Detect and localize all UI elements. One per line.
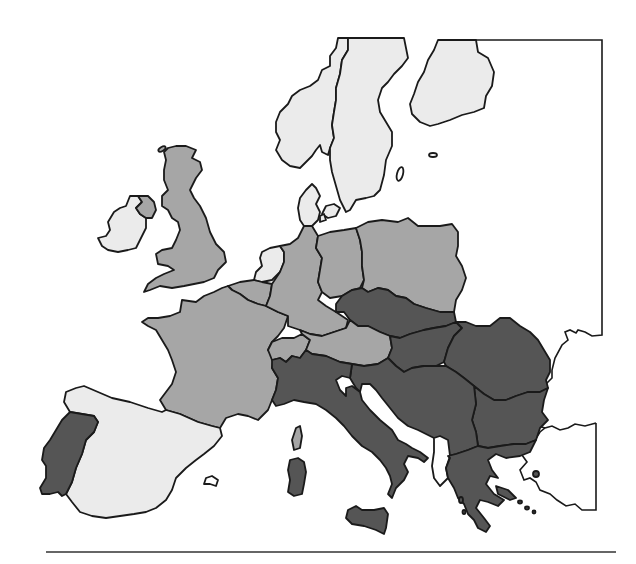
region-france: [142, 286, 288, 428]
region-sweden: [330, 38, 408, 212]
region-greece-island-2: [525, 507, 529, 510]
region-greece-island-3: [533, 511, 536, 514]
region-greece-island-4: [459, 497, 463, 503]
region-sicily: [346, 506, 388, 534]
region-united-kingdom: [144, 146, 226, 292]
region-corsica: [292, 426, 302, 450]
europe-map: [0, 0, 636, 564]
region-greece: [446, 440, 536, 532]
region-oland: [429, 153, 437, 157]
region-denmark-funen: [320, 214, 326, 222]
region-finland: [410, 40, 494, 126]
region-greece-island-1: [518, 501, 522, 504]
region-sardinia: [288, 458, 306, 496]
region-east-germany: [316, 228, 364, 298]
region-denmark: [298, 184, 320, 226]
map-canvas: [0, 0, 636, 564]
region-greece-island-5: [463, 510, 466, 514]
region-gotland: [395, 166, 404, 181]
region-balearic-islands: [204, 476, 218, 486]
region-greece-lesbos: [533, 471, 539, 477]
